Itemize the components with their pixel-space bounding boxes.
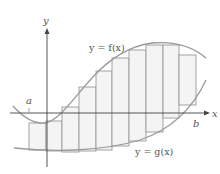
area-between-curves-diagram: y x a b y = f(x) y = g(x) bbox=[0, 0, 220, 174]
x-axis-label: x bbox=[212, 108, 218, 119]
g-curve-label: y = g(x) bbox=[134, 146, 173, 157]
rectangle-4 bbox=[79, 87, 96, 151]
rectangle-3 bbox=[62, 107, 79, 152]
rectangle-10 bbox=[179, 55, 196, 105]
a-label: a bbox=[26, 95, 32, 106]
rectangle-2 bbox=[46, 121, 62, 151]
b-label: b bbox=[193, 118, 199, 129]
y-axis-arrow-icon bbox=[45, 28, 50, 34]
f-curve-label: y = f(x) bbox=[88, 42, 125, 53]
rectangle-6 bbox=[112, 58, 129, 146]
y-axis-label: y bbox=[42, 15, 49, 26]
rectangle-5 bbox=[96, 71, 112, 150]
rectangle-8 bbox=[146, 45, 163, 132]
riemann-rectangles bbox=[29, 45, 196, 152]
rectangle-1 bbox=[29, 123, 46, 150]
x-axis-arrow-icon bbox=[204, 111, 210, 116]
rectangle-7 bbox=[129, 50, 146, 141]
rectangle-9 bbox=[163, 45, 179, 118]
